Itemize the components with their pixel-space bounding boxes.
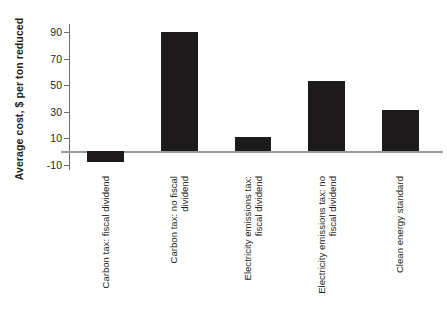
x-label-slot: Carbon tax: no fiscal dividend — [143, 176, 217, 316]
x-label-slot: Clean energy standard — [363, 176, 437, 316]
x-axis-label: Carbon tax: fiscal dividend — [100, 176, 111, 312]
x-axis-label: Electricity emissions tax: fiscal divide… — [242, 176, 265, 312]
y-tick-mark — [64, 138, 69, 139]
y-tick-mark — [64, 165, 69, 166]
x-axis-label: Clean energy standard — [394, 176, 405, 312]
x-label-slot: Electricity emissions tax: no fiscal div… — [290, 176, 364, 316]
y-tick-label: -10 — [47, 159, 62, 171]
x-label-slot: Electricity emissions tax: fiscal divide… — [216, 176, 290, 316]
bar — [87, 151, 124, 162]
x-axis-label: Carbon tax: no fiscal dividend — [168, 176, 191, 312]
plot-area: 9070503010-10 — [69, 24, 437, 170]
y-axis-title: Average cost, $ per ton reduced — [13, 9, 31, 189]
bar — [382, 110, 419, 151]
y-tick-mark — [64, 32, 69, 33]
y-tick-mark — [64, 112, 69, 113]
x-axis-label: Electricity emissions tax: no fiscal div… — [315, 176, 338, 312]
bar-chart-figure: Average cost, $ per ton reduced 90705030… — [0, 0, 447, 316]
y-tick-label: 50 — [50, 79, 62, 91]
y-tick-label: 70 — [50, 53, 62, 65]
x-axis-category-labels: Carbon tax: fiscal dividendCarbon tax: n… — [69, 176, 437, 316]
x-label-slot: Carbon tax: fiscal dividend — [69, 176, 143, 316]
y-tick-label: 30 — [50, 106, 62, 118]
bar — [161, 32, 198, 151]
bar — [235, 137, 272, 152]
y-axis-line — [69, 24, 70, 170]
bar — [308, 81, 345, 151]
y-tick-label: 10 — [50, 132, 62, 144]
y-tick-label: 90 — [50, 26, 62, 38]
y-tick-mark — [64, 59, 69, 60]
y-tick-mark — [64, 85, 69, 86]
